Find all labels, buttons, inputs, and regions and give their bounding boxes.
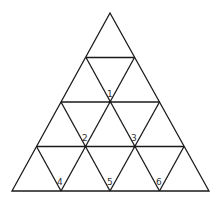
- vertex-label-5: 5: [107, 177, 113, 187]
- vertex-dots: [84, 101, 136, 148]
- vertex-dot-2: [84, 145, 87, 148]
- vertex-label-6: 6: [156, 177, 162, 187]
- vertex-label-1: 1: [107, 89, 113, 99]
- vertex-label-2: 2: [82, 133, 88, 143]
- vertex-label-4: 4: [57, 177, 63, 187]
- vertex-label-3: 3: [131, 133, 137, 143]
- triangle-grid-diagram: 1 2 3 4 5 6: [0, 0, 223, 203]
- vertex-dot-1: [109, 101, 112, 104]
- diag-dl-3: [160, 147, 185, 192]
- vertex-dot-3: [133, 145, 136, 148]
